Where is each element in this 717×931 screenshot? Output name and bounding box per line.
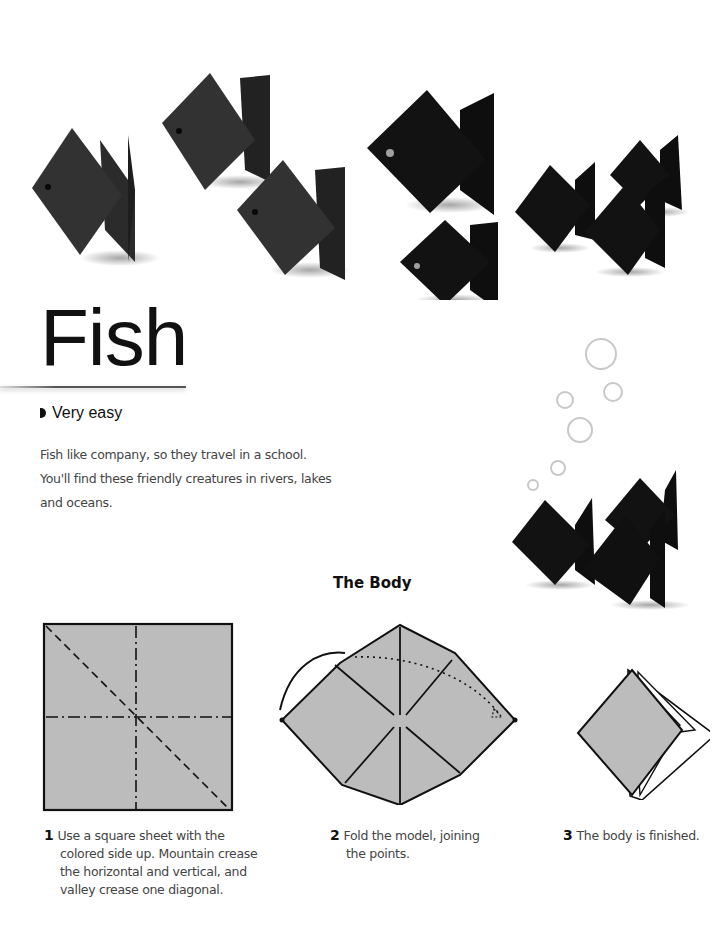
step-number: 1 [44,827,53,843]
section-title: The Body [333,574,412,592]
fish-photo-6 [515,162,595,253]
fish-photo-4 [367,90,495,215]
step-3-caption: 3The body is finished. [563,826,717,845]
bubble-icon [568,418,592,442]
step-1-caption: 1Use a square sheet with the colored sid… [44,826,270,899]
difficulty-marker-icon [40,408,46,418]
difficulty-text: Very easy [52,404,122,421]
bubble-icon [586,339,616,369]
difficulty-label: Very easy [40,404,122,422]
bubbles-and-fish-photo [500,320,717,610]
step-2-caption: 2Fold the model, joining the points. [330,826,496,863]
fish-photo-5 [400,220,498,300]
page-title: Fish [40,298,187,378]
intro-line: You'll find these friendly creatures in … [40,467,340,491]
step-text: Use a square sheet with the colored side… [57,828,257,897]
intro-paragraph: Fish like company, so they travel in a s… [40,443,340,515]
step-number: 3 [563,827,572,843]
step-text: Fold the model, joining the points. [343,828,479,861]
title-divider [0,386,186,388]
diagram-step-1 [40,620,240,820]
intro-line: Fish like company, so they travel in a s… [40,443,340,467]
fish-photo-8 [585,178,665,277]
step-text: The body is finished. [576,828,699,843]
fish-photo-1 [32,128,160,266]
origami-fish-photo [0,0,717,300]
step-number: 2 [330,827,339,843]
fish-photo-2 [162,73,280,190]
intro-line: and oceans. [40,491,340,515]
bubble-icon [557,392,573,408]
bubble-icon [604,383,622,401]
diagram-step-2 [270,615,530,805]
diagram-step-3 [560,650,710,800]
bubble-icon [528,480,538,490]
bubble-icon [551,461,565,475]
